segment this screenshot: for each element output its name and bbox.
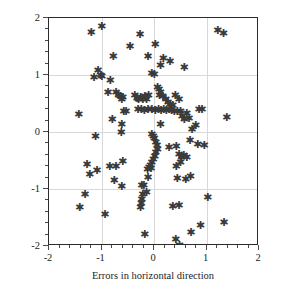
data-point: ✱ (168, 202, 177, 211)
data-point: ✱ (165, 57, 174, 66)
data-point: ✱ (150, 70, 159, 79)
data-point: ✱ (143, 105, 152, 114)
x-tick-label: 0 (150, 252, 155, 263)
data-point: ✱ (147, 130, 156, 139)
y-tick-label: -2 (31, 240, 40, 251)
x-tick-minor (122, 245, 123, 248)
y-axis-ticks (43, 17, 49, 245)
data-point: ✱ (162, 106, 171, 115)
x-tick-minor (143, 245, 144, 248)
data-point: ✱ (139, 181, 148, 190)
x-tick-minor (237, 245, 238, 248)
data-point: ✱ (176, 158, 185, 167)
data-point: ✱ (182, 109, 191, 118)
x-tick-minor (132, 245, 133, 248)
data-point: ✱ (172, 142, 181, 151)
data-point: ✱ (203, 193, 212, 202)
y-tick-minor (45, 142, 48, 143)
data-point: ✱ (103, 88, 112, 97)
x-tick-label: 1 (203, 252, 208, 263)
data-point: ✱ (177, 112, 186, 121)
data-point: ✱ (213, 26, 222, 35)
data-point: ✱ (140, 92, 149, 101)
data-point: ✱ (133, 105, 142, 114)
data-point: ✱ (174, 95, 183, 104)
data-point: ✱ (138, 95, 147, 104)
data-point: ✱ (111, 162, 120, 171)
y-tick-minor (45, 120, 48, 121)
x-tick-minor (69, 245, 70, 248)
y-tick-minor (45, 234, 48, 235)
data-point: ✱ (136, 93, 145, 102)
data-point: ✱ (151, 148, 160, 157)
x-axis-ticks (48, 245, 258, 251)
data-point: ✱ (159, 105, 168, 114)
x-tick-minor (195, 245, 196, 248)
data-point: ✱ (105, 162, 114, 171)
data-point: ✱ (163, 98, 172, 107)
y-tick-label: 1 (35, 69, 40, 80)
data-point: ✱ (147, 158, 156, 167)
gridline-horizontal (49, 189, 257, 190)
data-point: ✱ (148, 132, 157, 141)
data-point: ✱ (174, 150, 183, 159)
data-point: ✱ (135, 30, 144, 39)
data-point: ✱ (108, 115, 117, 124)
data-point: ✱ (111, 88, 120, 97)
data-point: ✱ (93, 66, 102, 75)
x-tick-label: -1 (96, 252, 105, 263)
data-point: ✱ (199, 141, 208, 150)
data-point: ✱ (193, 140, 202, 149)
data-point: ✱ (115, 92, 124, 101)
data-point: ✱ (161, 95, 170, 104)
data-point: ✱ (173, 174, 182, 183)
data-point: ✱ (156, 88, 165, 97)
data-point: ✱ (179, 151, 188, 160)
x-tick-major (101, 245, 102, 250)
gridlines (49, 18, 257, 244)
x-tick-major (48, 245, 49, 250)
data-point: ✱ (137, 195, 146, 204)
data-point: ✱ (142, 188, 151, 197)
y-tick-minor (45, 154, 48, 155)
data-point: ✱ (142, 95, 151, 104)
data-point: ✱ (158, 54, 167, 63)
data-point: ✱ (110, 176, 119, 185)
data-points-layer: ✱✱✱✱✱✱✱✱✱✱✱✱✱✱✱✱✱✱✱✱✱✱✱✱✱✱✱✱✱✱✱✱✱✱✱✱✱✱✱✱… (49, 18, 257, 244)
y-tick-minor (45, 165, 48, 166)
scatter-plot-figure: ✱✱✱✱✱✱✱✱✱✱✱✱✱✱✱✱✱✱✱✱✱✱✱✱✱✱✱✱✱✱✱✱✱✱✱✱✱✱✱✱… (0, 0, 293, 295)
data-point: ✱ (158, 92, 167, 101)
y-tick-minor (45, 97, 48, 98)
y-tick-minor (45, 85, 48, 86)
y-tick-minor (45, 28, 48, 29)
data-point: ✱ (74, 110, 83, 119)
data-point: ✱ (186, 228, 195, 237)
data-point: ✱ (91, 132, 100, 141)
data-point: ✱ (117, 95, 126, 104)
data-point: ✱ (114, 91, 123, 100)
data-point: ✱ (143, 173, 152, 182)
data-point: ✱ (153, 145, 162, 154)
data-point: ✱ (177, 153, 186, 162)
plot-area: ✱✱✱✱✱✱✱✱✱✱✱✱✱✱✱✱✱✱✱✱✱✱✱✱✱✱✱✱✱✱✱✱✱✱✱✱✱✱✱✱… (48, 17, 258, 245)
data-point: ✱ (155, 91, 164, 100)
gridline-vertical (154, 18, 155, 244)
y-tick-label: 2 (35, 12, 40, 23)
data-point: ✱ (130, 91, 139, 100)
x-tick-label: 2 (255, 252, 260, 263)
data-point: ✱ (147, 105, 156, 114)
y-tick-major (43, 74, 48, 75)
x-tick-minor (111, 245, 112, 248)
x-tick-minor (174, 245, 175, 248)
data-point: ✱ (148, 155, 157, 164)
data-point: ✱ (97, 22, 106, 31)
data-point: ✱ (174, 201, 183, 210)
data-point: ✱ (179, 115, 188, 124)
data-point: ✱ (80, 190, 89, 199)
data-point: ✱ (197, 105, 206, 114)
data-point: ✱ (96, 71, 105, 80)
y-tick-minor (45, 222, 48, 223)
data-point: ✱ (138, 190, 147, 199)
x-tick-major (258, 245, 259, 250)
data-point: ✱ (125, 42, 134, 51)
